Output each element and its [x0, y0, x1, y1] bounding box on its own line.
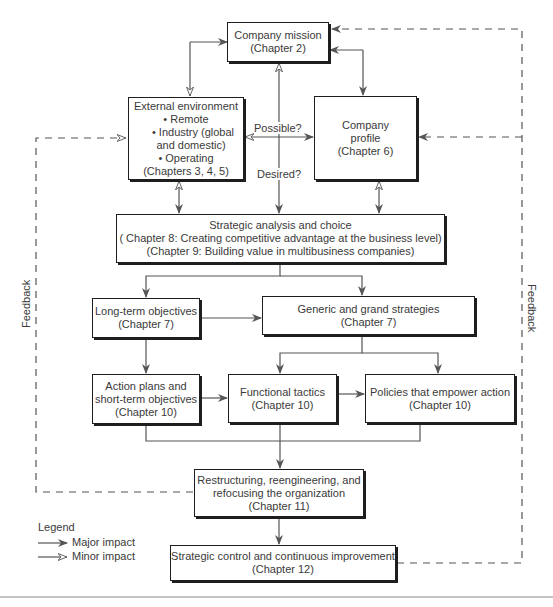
bottom-divider	[0, 596, 553, 598]
action-plans-line1: Action plans and	[105, 380, 186, 393]
functional-tactics-chapter: (Chapter 10)	[252, 399, 314, 412]
strategic-analysis-box: Strategic analysis and choice ( Chapter …	[116, 214, 445, 263]
strategic-analysis-title: Strategic analysis and choice	[209, 219, 351, 232]
policies-box: Policies that empower action (Chapter 10…	[365, 374, 515, 423]
legend-minor-label: Minor impact	[72, 550, 135, 562]
feedback-label-left: Feedback	[20, 284, 32, 328]
company-profile-line2: profile	[351, 132, 381, 145]
strategic-control-box: Strategic control and continuous improve…	[170, 545, 396, 581]
legend-major-impact: Major impact	[38, 536, 135, 548]
restructuring-box: Restructuring, reengineering, and refocu…	[194, 469, 364, 517]
generic-grand-strategies-chapter: (Chapter 7)	[341, 316, 397, 329]
policies-title: Policies that empower action	[370, 386, 510, 399]
strategic-analysis-chapter9: (Chapter 9: Building value in multibusin…	[147, 245, 415, 258]
legend-major-label: Major impact	[72, 536, 135, 548]
generic-grand-strategies-box: Generic and grand strategies (Chapter 7)	[262, 296, 475, 335]
strategic-analysis-chapter8: ( Chapter 8: Creating competitive advant…	[119, 232, 441, 245]
long-term-objectives-title: Long-term objectives	[95, 305, 197, 318]
action-plans-line2: short-term objectives	[95, 393, 197, 406]
generic-grand-strategies-title: Generic and grand strategies	[298, 303, 440, 316]
external-bullet-remote: • Remote	[163, 113, 208, 126]
external-bullet-industry: • Industry (global	[138, 126, 234, 139]
functional-tactics-title: Functional tactics	[240, 386, 325, 399]
company-profile-chapter: (Chapter 6)	[338, 145, 394, 158]
desired-label: Desired?	[257, 168, 301, 180]
long-term-objectives-box: Long-term objectives (Chapter 7)	[92, 298, 200, 338]
policies-chapter: (Chapter 10)	[409, 399, 471, 412]
external-bullet-industry-cont: and domestic)	[146, 139, 225, 152]
company-profile-box: Company profile (Chapter 6)	[314, 96, 417, 180]
legend-title: Legend	[38, 521, 75, 533]
legend-minor-impact: Minor impact	[38, 550, 135, 562]
company-profile-line1: Company	[342, 119, 389, 132]
external-environment-box: External environment • Remote • Industry…	[128, 97, 244, 180]
action-plans-box: Action plans and short-term objectives (…	[92, 374, 200, 424]
company-mission-title: Company mission	[234, 29, 321, 42]
action-plans-chapter: (Chapter 10)	[115, 406, 177, 419]
functional-tactics-box: Functional tactics (Chapter 10)	[228, 374, 337, 423]
company-mission-box: Company mission (Chapter 2)	[227, 22, 329, 62]
possible-label: Possible?	[254, 122, 302, 134]
restructuring-line1: Restructuring, reengineering, and	[197, 474, 360, 487]
external-environment-chapter: (Chapters 3, 4, 5)	[143, 165, 229, 178]
external-bullet-operating: • Operating	[158, 152, 213, 165]
strategic-control-title: Strategic control and continuous improve…	[171, 550, 395, 563]
restructuring-line2: refocusing the organization	[213, 487, 345, 500]
feedback-label-right: Feedback	[526, 284, 538, 328]
long-term-objectives-chapter: (Chapter 7)	[118, 318, 174, 331]
restructuring-chapter: (Chapter 11)	[249, 500, 310, 513]
external-environment-title: External environment	[134, 100, 238, 113]
strategic-control-chapter: (Chapter 12)	[252, 563, 314, 576]
company-mission-chapter: (Chapter 2)	[250, 42, 306, 55]
